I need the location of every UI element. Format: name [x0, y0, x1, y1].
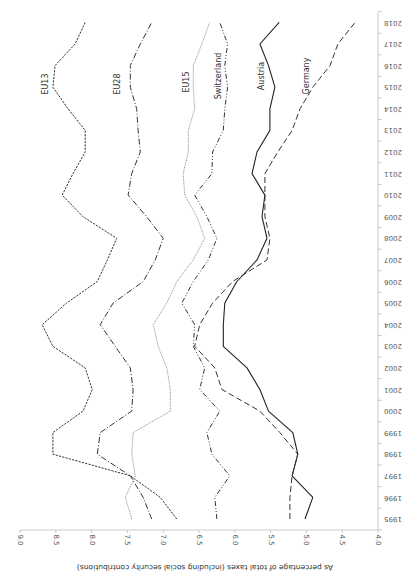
value-tick-label: 8.0	[88, 534, 96, 545]
year-tick-label: 2002	[384, 364, 402, 372]
series-line-austria	[223, 22, 312, 519]
value-tick-label: 8.5	[52, 534, 60, 545]
series-line-eu13	[42, 22, 177, 519]
year-tick-label: 2016	[384, 62, 402, 70]
year-tick-label: 1996	[384, 493, 402, 501]
year-tick-label: 1997	[384, 472, 402, 480]
value-axis: 4.04.55.05.56.06.57.07.58.08.59.0	[16, 530, 382, 546]
year-tick-label: 2006	[384, 278, 402, 286]
series-label-switzerland: Switzerland	[214, 53, 223, 100]
line-chart: 1995199619971998199920002001200220032004…	[0, 0, 412, 580]
series-label-eu13: EU13	[41, 73, 50, 94]
series-lines	[42, 22, 355, 519]
year-tick-label: 2018	[384, 19, 402, 27]
series-label-austria: Austria	[257, 62, 266, 90]
year-tick-label: 2015	[384, 83, 402, 91]
year-tick-label: 2010	[384, 191, 402, 199]
year-tick-label: 1995	[384, 515, 402, 523]
value-tick-label: 4.5	[338, 534, 346, 545]
year-tick-label: 2013	[384, 126, 402, 134]
year-tick-label: 2009	[384, 213, 402, 221]
year-tick-label: 2014	[384, 105, 402, 113]
year-tick-label: 2011	[384, 170, 402, 178]
value-axis-title: As percentage of total taxes (including …	[77, 563, 333, 572]
value-tick-label: 7.0	[159, 534, 167, 545]
value-tick-label: 7.5	[123, 534, 131, 545]
year-tick-label: 2001	[384, 386, 402, 394]
value-tick-label: 9.0	[16, 534, 24, 545]
year-tick-label: 2017	[384, 40, 402, 48]
year-tick-label: 1998	[384, 450, 402, 458]
series-line-eu15	[125, 22, 209, 519]
value-tick-label: 6.0	[231, 534, 239, 545]
year-tick-label: 2003	[384, 342, 402, 350]
year-tick-label: 2007	[384, 256, 402, 264]
value-tick-label: 5.5	[267, 534, 275, 545]
year-tick-label: 2000	[384, 407, 402, 415]
series-labels: EU13EU28EU15SwitzerlandAustriaGermany	[41, 53, 311, 100]
year-tick-label: 2005	[384, 299, 402, 307]
year-tick-label: 2008	[384, 234, 402, 242]
series-label-germany: Germany	[302, 57, 311, 94]
year-tick-label: 2004	[384, 321, 402, 329]
year-axis: 1995199619971998199920002001200220032004…	[378, 12, 402, 530]
series-line-eu28	[97, 22, 163, 519]
series-label-eu28: EU28	[113, 73, 122, 94]
value-tick-label: 5.0	[302, 534, 310, 545]
value-tick-label: 4.0	[374, 534, 382, 545]
value-tick-label: 6.5	[195, 534, 203, 545]
year-tick-label: 2012	[384, 148, 402, 156]
year-tick-label: 1999	[384, 429, 402, 437]
series-line-switzerland	[182, 22, 230, 519]
series-label-eu15: EU15	[182, 71, 191, 92]
